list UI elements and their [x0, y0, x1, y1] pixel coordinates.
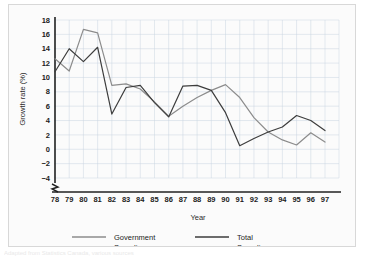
y-tick-label: 8 [46, 87, 50, 96]
x-tick-label: 90 [221, 195, 229, 204]
y-tick-label: 0 [46, 145, 50, 154]
y-tick-label: 10 [42, 73, 50, 82]
legend-label-line2: Spending [114, 243, 146, 246]
y-tick-label: 12 [42, 59, 50, 68]
x-tick-label: 91 [236, 195, 244, 204]
y-tick-label: −4 [41, 174, 50, 183]
legend-label-line2: Spending [237, 243, 269, 246]
figure-caption: Adapted from Statistics Canada, various … [4, 250, 360, 256]
y-tick-label: −2 [41, 159, 50, 168]
x-tick-label: 95 [292, 195, 300, 204]
y-axis-title: Growth rate (%) [18, 72, 27, 125]
x-tick-label: 92 [250, 195, 258, 204]
x-axis-title: Year [190, 213, 206, 222]
y-tick-label: 2 [46, 131, 50, 140]
x-tick-label: 78 [51, 195, 59, 204]
x-tick-label: 96 [307, 195, 315, 204]
x-tick-label: 82 [108, 195, 116, 204]
x-tick-label: 83 [122, 195, 130, 204]
y-tick-label: 18 [42, 16, 50, 25]
chart-legend: GovernmentSpendingTotalSpending [72, 233, 269, 246]
y-tick-label: 6 [46, 102, 50, 111]
grid-lines [54, 20, 339, 178]
axes [52, 17, 341, 192]
legend-label-line1: Government [114, 233, 156, 242]
y-tick-label: 14 [42, 44, 51, 53]
x-tick-label: 85 [150, 195, 158, 204]
x-tick-label: 79 [65, 195, 73, 204]
data-series [55, 29, 325, 145]
x-tick-label: 93 [264, 195, 272, 204]
series-line [55, 47, 325, 145]
x-tick-label: 80 [79, 195, 87, 204]
line-chart: −4−2024681012141618 78798081828384858687… [9, 5, 355, 246]
y-tick-label: 16 [42, 30, 50, 39]
x-tick-label: 81 [93, 195, 101, 204]
chart-figure: −4−2024681012141618 78798081828384858687… [8, 4, 356, 247]
series-line [55, 29, 325, 145]
y-tick-labels: −4−2024681012141618 [41, 16, 50, 183]
x-tick-label: 84 [136, 195, 145, 204]
x-tick-label: 86 [165, 195, 173, 204]
x-tick-label: 89 [207, 195, 215, 204]
x-tick-label: 88 [193, 195, 201, 204]
x-tick-label: 87 [179, 195, 187, 204]
legend-label-line1: Total [237, 233, 253, 242]
x-tick-label: 94 [278, 195, 287, 204]
x-tick-labels: 7879808182838485868788899091929394959697 [51, 195, 329, 204]
x-tick-label: 97 [321, 195, 329, 204]
y-tick-label: 4 [46, 116, 51, 125]
